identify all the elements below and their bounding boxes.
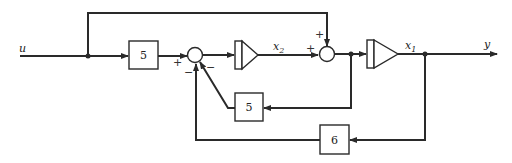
gain-block-input-label: 5 [140,49,147,62]
signal-label-x2: x2 [273,40,284,55]
output-label-y: y [483,38,491,51]
feedforward-wire [88,13,327,56]
integrator-2 [367,40,398,68]
block-diagram: u 5 + − − x2 + + x1 y 5 6 [0,0,512,163]
sum2-sign-plus-left: + [306,42,315,55]
feedback-wire-to-gain6 [350,54,425,140]
summing-junction-1 [188,48,203,63]
feedback-wire-gain5-to-sum1 [200,62,235,108]
sum1-sign-plus: + [173,56,182,69]
feedback-wire-to-gain5 [264,54,351,108]
sum1-sign-minus-right: − [206,61,215,74]
signal-label-x1: x1 [405,39,416,54]
summing-junction-2 [320,47,335,62]
sum2-sign-plus-top: + [315,28,324,41]
sum1-sign-minus-left: − [184,66,193,79]
gain-block-feedback-6-label: 6 [331,134,338,147]
gain-block-feedback-5-label: 5 [246,101,253,114]
integrator-1 [235,41,258,69]
input-label-u: u [19,42,26,55]
